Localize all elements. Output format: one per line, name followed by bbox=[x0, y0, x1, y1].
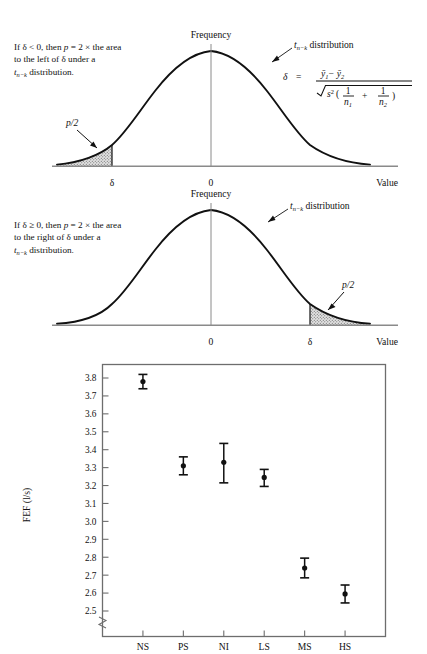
x-tick-label: PS bbox=[178, 641, 189, 652]
y-tick-label: 3.4 bbox=[85, 445, 97, 455]
fef-chart: FEF (l/s) 2.52.62.72.82.93.03.13.23.33.4… bbox=[21, 365, 386, 653]
formula-frac2-denominator: n2 bbox=[379, 97, 388, 108]
chart-data-points bbox=[138, 374, 349, 603]
lower-note-line-2: to the right of δ under a bbox=[14, 232, 100, 242]
data-point-with-error-bar bbox=[341, 585, 350, 603]
upper-note-line-1: If δ < 0, then p = 2 × the area bbox=[14, 42, 121, 52]
upper-curve-callout-text: tn−k distribution bbox=[294, 39, 354, 51]
upper-note-line-2: to the left of δ under a bbox=[14, 54, 95, 64]
panel-upper: Frequency Value 0 δ p/2 tn−k distributio… bbox=[14, 29, 398, 188]
y-tick-label: 3.8 bbox=[85, 373, 97, 383]
chart-plot-frame bbox=[103, 365, 386, 637]
figure-svg: Frequency Value 0 δ p/2 tn−k distributio… bbox=[0, 0, 427, 654]
x-tick-label: LS bbox=[259, 641, 270, 652]
panel-lower: Frequency Value 0 δ p/2 tn−k distributio… bbox=[14, 188, 398, 347]
chart-axis-break-icon bbox=[99, 617, 106, 628]
lower-p-half-arrowhead bbox=[328, 304, 336, 311]
x-tick-label: MS bbox=[298, 641, 312, 652]
lower-p-half-label: p/2 bbox=[341, 279, 354, 290]
y-tick-label: 3.7 bbox=[85, 391, 97, 401]
data-point-marker bbox=[221, 460, 226, 465]
y-tick-label: 2.8 bbox=[85, 553, 97, 563]
lower-value-label: Value bbox=[376, 336, 398, 347]
data-point-marker bbox=[181, 463, 186, 468]
data-point-with-error-bar bbox=[260, 469, 269, 486]
lower-note-line-1: If δ ≥ 0, then p = 2 × the area bbox=[14, 220, 121, 230]
y-tick-label: 2.7 bbox=[85, 571, 97, 581]
y-tick-label: 2.9 bbox=[85, 535, 97, 545]
lower-curve-callout-arrowhead bbox=[268, 216, 276, 223]
lower-origin-label: 0 bbox=[209, 336, 214, 347]
figure-container: Frequency Value 0 δ p/2 tn−k distributio… bbox=[0, 0, 427, 654]
x-tick-label: NI bbox=[219, 641, 229, 652]
chart-y-axis-label: FEF (l/s) bbox=[21, 488, 33, 522]
formula-frac1-numerator: 1 bbox=[346, 86, 351, 96]
upper-curve-callout-arrowhead bbox=[272, 56, 280, 63]
upper-frequency-label: Frequency bbox=[191, 29, 232, 40]
data-point-marker bbox=[342, 591, 347, 596]
chart-x-ticks: NSPSNILSMSHS bbox=[137, 631, 351, 653]
upper-value-label: Value bbox=[376, 177, 398, 188]
upper-delta-label: δ bbox=[110, 177, 115, 188]
chart-y-ticks: 2.52.62.72.82.93.03.13.23.33.43.53.63.73… bbox=[85, 373, 109, 616]
data-point-with-error-bar bbox=[219, 443, 228, 482]
y-tick-label: 3.2 bbox=[85, 481, 97, 491]
formula-frac1-denominator: n1 bbox=[344, 97, 352, 108]
data-point-marker bbox=[302, 565, 307, 570]
y-tick-label: 3.5 bbox=[85, 427, 97, 437]
lower-shaded-tail bbox=[310, 304, 370, 325]
delta-formula: δ = ȳ1−ȳ2 s2( 1 n1 + 1 n2 ) bbox=[283, 69, 412, 108]
lower-note-line-3: tn−k distribution. bbox=[14, 245, 74, 256]
formula-denominator-plus: + bbox=[362, 91, 367, 101]
formula-numerator: ȳ1−ȳ2 bbox=[320, 69, 345, 80]
formula-denominator: s2( bbox=[327, 88, 339, 100]
y-tick-label: 3.0 bbox=[85, 517, 97, 527]
data-point-with-error-bar bbox=[179, 457, 188, 475]
y-tick-label: 3.3 bbox=[85, 463, 97, 473]
lower-frequency-label: Frequency bbox=[191, 188, 232, 199]
data-point-with-error-bar bbox=[138, 374, 147, 388]
lower-curve-callout-text: tn−k distribution bbox=[290, 200, 350, 212]
upper-origin-label: 0 bbox=[209, 177, 214, 188]
y-tick-label: 3.6 bbox=[85, 409, 97, 419]
formula-lhs: δ bbox=[283, 72, 288, 82]
x-tick-label: HS bbox=[339, 641, 351, 652]
formula-denominator-close-paren: ) bbox=[392, 91, 395, 102]
upper-note-line-3: tn−k distribution. bbox=[14, 67, 74, 78]
y-tick-label: 3.1 bbox=[85, 499, 97, 509]
data-point-marker bbox=[262, 475, 267, 480]
formula-equals: = bbox=[296, 72, 301, 82]
y-tick-label: 2.6 bbox=[85, 588, 97, 598]
x-tick-label: NS bbox=[137, 641, 149, 652]
data-point-with-error-bar bbox=[300, 558, 309, 578]
upper-p-half-label: p/2 bbox=[65, 117, 78, 128]
data-point-marker bbox=[140, 379, 145, 384]
lower-delta-label: δ bbox=[308, 336, 313, 347]
y-tick-label: 2.5 bbox=[85, 606, 97, 616]
formula-frac2-numerator: 1 bbox=[381, 86, 386, 96]
